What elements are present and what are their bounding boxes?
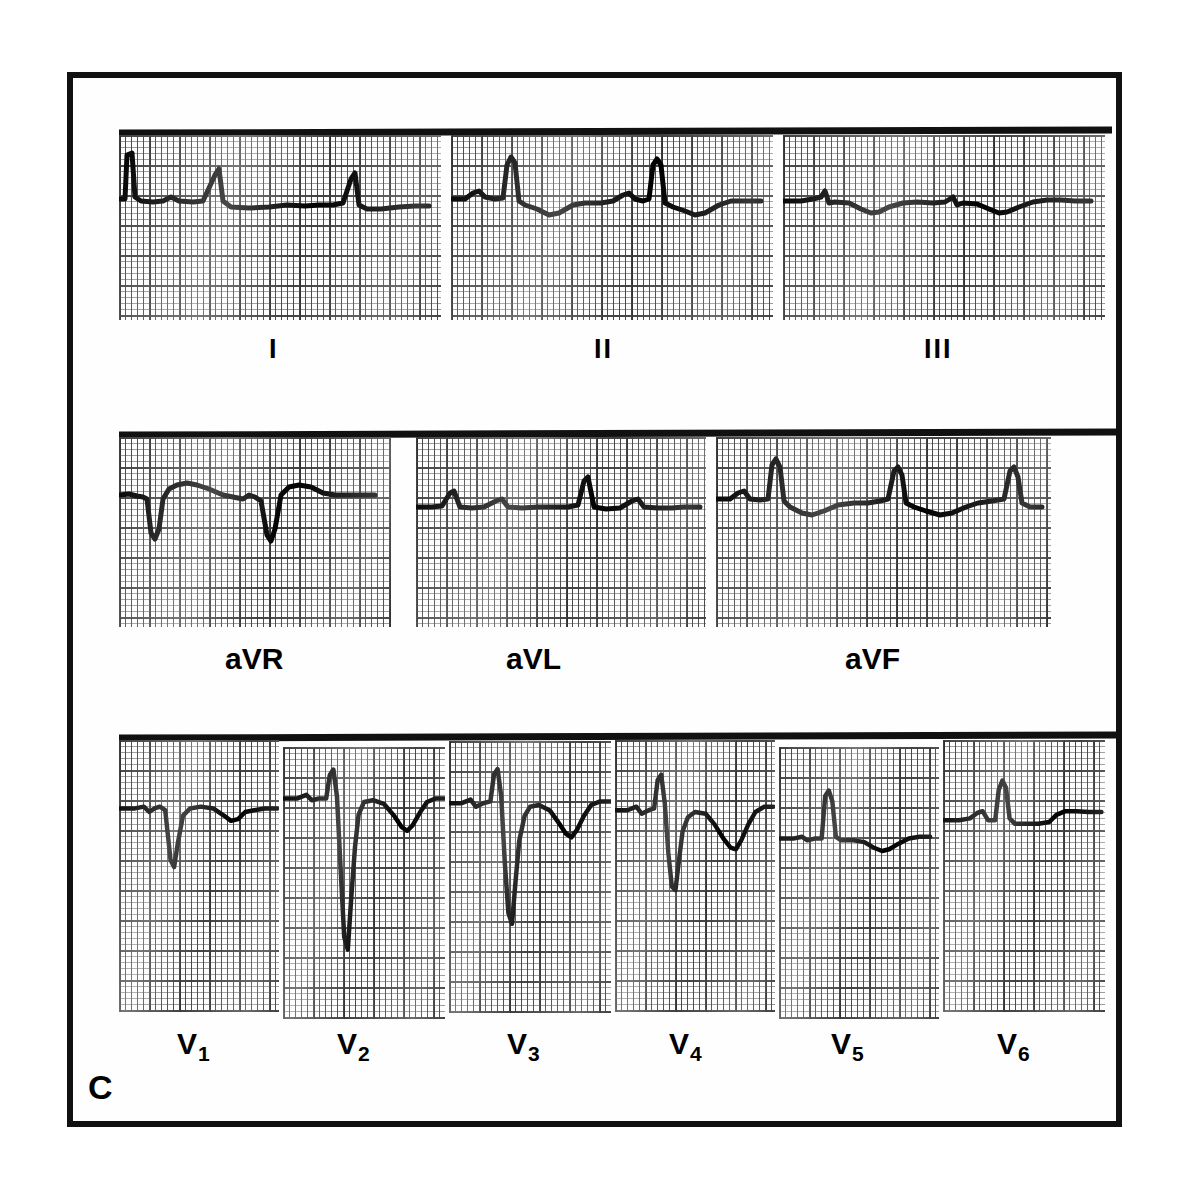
ecg-trace-aVR	[119, 437, 391, 627]
lead-label-V1: V1	[177, 1027, 210, 1066]
panel-letter: C	[88, 1068, 113, 1107]
ecg-trace-aVF	[716, 437, 1051, 627]
ecg-trace-I	[119, 135, 441, 320]
ecg-trace-III	[783, 135, 1105, 320]
lead-label-V5-subscript: 5	[852, 1042, 864, 1065]
ecg-trace-V5	[779, 747, 939, 1019]
lead-label-V4: V4	[669, 1027, 702, 1066]
ecg-row-augmented-leads: aVR aVL aVF	[119, 430, 1119, 720]
ecg-strip-V1	[119, 740, 279, 1012]
ecg-strip-aVF	[716, 437, 1051, 627]
ecg-strip-aVR	[119, 437, 391, 627]
ecg-row-precordial-leads: V1 V2 V3 V4 V5 V6	[119, 733, 1119, 1083]
lead-label-V1-text: V	[177, 1027, 197, 1060]
lead-label-aVL: aVL	[506, 642, 561, 676]
ecg-strip-V6	[943, 740, 1105, 1012]
ecg-trace-II	[451, 135, 773, 320]
lead-label-I: I	[269, 334, 279, 365]
lead-label-V2: V2	[337, 1027, 370, 1066]
ecg-trace-V4	[615, 740, 775, 1012]
lead-label-aVR: aVR	[225, 642, 283, 676]
lead-label-V3-text: V	[507, 1027, 527, 1060]
lead-label-V5-text: V	[831, 1027, 851, 1060]
lead-label-II: II	[594, 334, 613, 365]
lead-label-III: III	[924, 334, 953, 365]
ecg-strip-III	[783, 135, 1105, 320]
lead-label-V1-subscript: 1	[198, 1042, 210, 1065]
ecg-trace-V3	[449, 741, 611, 1013]
ecg-strip-V2	[283, 747, 445, 1019]
lead-label-V4-text: V	[669, 1027, 689, 1060]
ecg-strip-II	[451, 135, 773, 320]
ecg-strip-V5	[779, 747, 939, 1019]
ecg-strip-V3	[449, 741, 611, 1013]
lead-label-V6-subscript: 6	[1018, 1042, 1030, 1065]
lead-label-V3-subscript: 3	[528, 1042, 540, 1065]
ecg-strip-I	[119, 135, 441, 320]
lead-label-V2-text: V	[337, 1027, 357, 1060]
lead-label-V6: V6	[997, 1027, 1030, 1066]
lead-label-aVF: aVF	[845, 642, 900, 676]
lead-label-V2-subscript: 2	[358, 1042, 370, 1065]
ecg-strip-aVL	[416, 437, 706, 627]
ecg-strip-V4	[615, 740, 775, 1012]
lead-label-V5: V5	[831, 1027, 864, 1066]
ecg-trace-aVL	[416, 437, 706, 627]
lead-label-V3: V3	[507, 1027, 540, 1066]
ecg-row-limb-leads: I II III	[119, 128, 1119, 418]
ecg-trace-V2	[283, 747, 445, 1019]
ecg-trace-V1	[119, 740, 279, 1012]
ecg-figure-frame: I II III aVR aVL aVF	[67, 72, 1122, 1127]
ecg-trace-V6	[943, 740, 1105, 1012]
lead-label-V6-text: V	[997, 1027, 1017, 1060]
lead-label-V4-subscript: 4	[690, 1042, 702, 1065]
